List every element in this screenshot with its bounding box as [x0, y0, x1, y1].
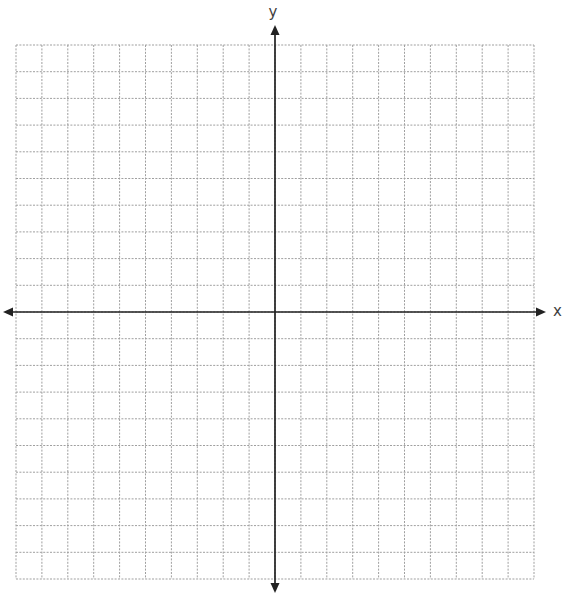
y-axis-arrow-up-icon	[271, 25, 280, 35]
x-axis-arrow-right-icon	[536, 308, 546, 317]
coordinate-grid	[0, 0, 567, 596]
x-axis-arrow-left-icon	[3, 308, 13, 317]
y-axis-arrow-down-icon	[271, 583, 280, 593]
x-axis-label: x	[553, 304, 562, 319]
y-axis-label: y	[269, 5, 278, 20]
graph-paper-page: y x	[0, 0, 567, 596]
